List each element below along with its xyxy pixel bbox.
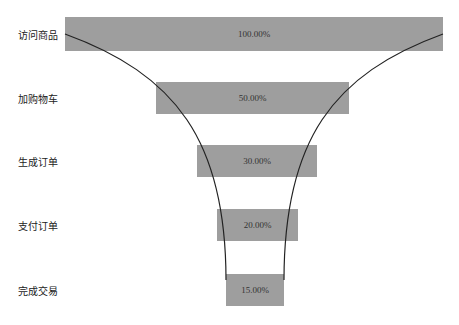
category-label: 加购物车: [18, 91, 58, 106]
right-funnel-curve: [284, 34, 443, 280]
category-label: 支付订单: [18, 218, 58, 233]
left-funnel-curve: [65, 34, 226, 280]
category-label: 生成订单: [18, 154, 58, 169]
funnel-curves: [0, 0, 459, 325]
funnel-chart: 15.00%20.00%30.00%50.00%100.00% 访问商品加购物车…: [0, 0, 459, 325]
category-label: 访问商品: [18, 27, 58, 42]
category-label: 完成交易: [18, 283, 58, 298]
